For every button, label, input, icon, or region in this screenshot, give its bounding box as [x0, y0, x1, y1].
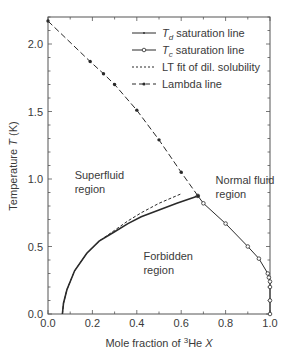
x-tick-label: 0.2: [85, 317, 100, 329]
x-tick-label: 1.0: [262, 317, 277, 329]
x-axis-label: Mole fraction of 3He X: [105, 336, 213, 349]
open-circle-marker: [268, 285, 272, 289]
filled-dot-marker: [196, 194, 199, 197]
y-tick-label: 2.0: [28, 38, 43, 50]
y-axis-label: Temperature T (K): [7, 121, 19, 210]
region-label-line: region: [216, 188, 247, 200]
y-tick-label: 0.5: [28, 241, 43, 253]
chart-canvas: 0.00.20.40.60.81.00.00.51.01.52.0 Superf…: [0, 0, 288, 354]
region-label-line: region: [143, 264, 174, 276]
legend-label: Tc saturation line: [162, 44, 244, 59]
open-circle-marker: [266, 272, 270, 276]
ylabel-prefix: Temperature: [7, 146, 19, 211]
x-tick-label: 0.4: [129, 317, 144, 329]
legend-label: Lambda line: [162, 78, 222, 90]
legend-label: Td saturation line: [162, 27, 245, 42]
filled-dot-marker: [102, 72, 105, 75]
x-tick-label: 0.6: [174, 317, 189, 329]
xlabel-mid: He: [188, 337, 205, 349]
filled-dot-marker: [180, 171, 183, 174]
ylabel-suffix: (K): [7, 121, 19, 139]
legend-marker: [142, 48, 146, 52]
xlabel-variable: X: [204, 337, 213, 349]
region-label: Superfluidregion: [75, 169, 125, 195]
region-label: Normal fluidregion: [216, 174, 275, 200]
region-annotations: SuperfluidregionNormal fluidregionForbid…: [75, 169, 275, 276]
y-tick-label: 1.0: [28, 173, 43, 185]
region-label-line: Normal fluid: [216, 174, 275, 186]
legend: Td saturation lineTc saturation lineLT f…: [132, 27, 261, 90]
open-circle-marker: [224, 222, 228, 226]
legend-marker: [142, 82, 145, 85]
open-circle-marker: [268, 312, 272, 316]
filled-dot-marker: [88, 60, 91, 63]
region-label: Forbiddenregion: [143, 250, 193, 276]
filled-dot-marker: [135, 108, 138, 111]
open-circle-marker: [268, 299, 272, 303]
filled-dot-marker: [157, 138, 160, 141]
open-circle-marker: [267, 276, 271, 280]
phase-diagram-chart: 0.00.20.40.60.81.00.00.51.01.52.0 Superf…: [0, 0, 288, 354]
open-circle-marker: [268, 280, 272, 284]
series-line: [198, 196, 270, 314]
legend-marker: [143, 32, 145, 34]
legend-text: saturation line: [173, 44, 245, 56]
filled-dot-marker: [113, 83, 116, 86]
region-label-line: Forbidden: [143, 250, 193, 262]
open-circle-marker: [202, 202, 206, 206]
xlabel-prefix: Mole fraction of: [105, 337, 183, 349]
legend-text: saturation line: [173, 27, 245, 39]
region-label-line: Superfluid: [75, 169, 125, 181]
y-tick-label: 0.0: [28, 308, 43, 320]
y-tick-label: 1.5: [28, 106, 43, 118]
region-label-line: region: [75, 183, 106, 195]
legend-label: LT fit of dil. solubility: [162, 61, 261, 73]
open-circle-marker: [246, 245, 250, 249]
filled-dot-marker: [46, 19, 49, 22]
open-circle-marker: [257, 257, 261, 261]
x-tick-label: 0.8: [218, 317, 233, 329]
